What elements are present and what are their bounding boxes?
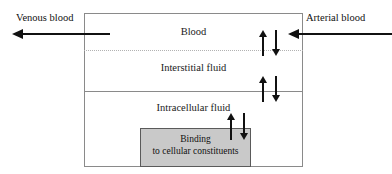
arrow-down-icon [272, 30, 281, 56]
compartment-label-intracellular-fluid: Intracellular fluid [84, 102, 303, 114]
compartment-label-interstitial-fluid: Interstitial fluid [84, 62, 303, 74]
arrow-up-shaft [230, 118, 232, 140]
arrow-up-shaft [262, 81, 264, 102]
arrow-down-head [272, 49, 280, 56]
separator-interstitial-intracellular [84, 91, 303, 92]
arrow-down-icon [272, 76, 281, 102]
arrow-down-icon [240, 113, 249, 140]
arrow-down-head [240, 133, 248, 140]
arrow-up-shaft [262, 35, 264, 56]
arrow-up-icon [259, 76, 268, 102]
arrow-down-shaft [243, 113, 245, 135]
separator-blood-interstitial [84, 50, 303, 51]
arrow-up-icon [259, 30, 268, 56]
diagram-canvas: Blood Interstitial fluid Intracellular f… [0, 0, 392, 174]
venous-blood-label: Venous blood [16, 12, 73, 24]
arterial-blood-label: Arterial blood [306, 12, 365, 24]
venous-arrow-head [12, 29, 23, 39]
arrow-down-head [272, 95, 280, 102]
arrow-down-shaft [275, 76, 277, 97]
arterial-arrow-shaft [298, 33, 392, 35]
binding-box-line-2: to cellular constituents [140, 145, 251, 157]
compartment-label-blood: Blood [84, 26, 303, 38]
arterial-arrow-head [288, 29, 299, 39]
arrow-up-icon [227, 113, 236, 140]
venous-arrow-shaft [22, 33, 110, 35]
arrow-down-shaft [275, 30, 277, 51]
